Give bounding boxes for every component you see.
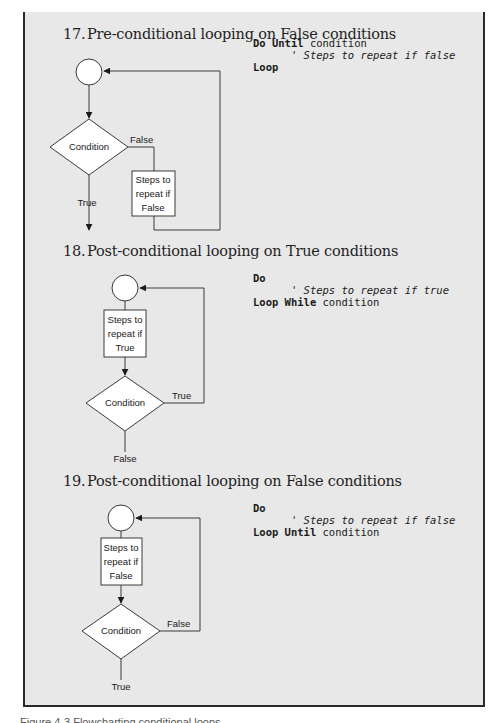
start-connector — [76, 59, 102, 85]
branch-label: True — [172, 390, 191, 401]
process-label-line: False — [109, 570, 132, 581]
process-label-line: repeat if — [104, 556, 139, 567]
flowchart-18 — [86, 275, 204, 452]
exit-label: False — [113, 453, 136, 464]
decision-label: Condition — [69, 141, 109, 152]
exit-label: True — [111, 681, 130, 692]
branch-label: False — [167, 618, 190, 629]
process-label-line: Steps to — [104, 542, 139, 553]
process-label-line: repeat if — [136, 188, 171, 199]
flowchart-19 — [82, 505, 200, 680]
branch-line — [128, 147, 154, 171]
process-label-line: Steps to — [108, 314, 143, 325]
loop-back-line — [136, 518, 200, 631]
decision-label: Condition — [101, 625, 141, 636]
figure-caption-cropped: Figure 4-3 Flowcharting conditional loop… — [20, 716, 221, 723]
branch-label: False — [130, 134, 153, 145]
process-label-line: Steps to — [136, 174, 171, 185]
process-label-line: repeat if — [108, 328, 143, 339]
start-connector — [112, 275, 138, 301]
process-label-line: False — [141, 202, 164, 213]
process-label-line: True — [115, 342, 134, 353]
loop-back-line — [140, 288, 204, 403]
flowcharts: Condition False True Steps to repeat if … — [0, 0, 497, 723]
start-connector — [108, 505, 134, 531]
exit-label: True — [77, 197, 96, 208]
decision-label: Condition — [105, 397, 145, 408]
